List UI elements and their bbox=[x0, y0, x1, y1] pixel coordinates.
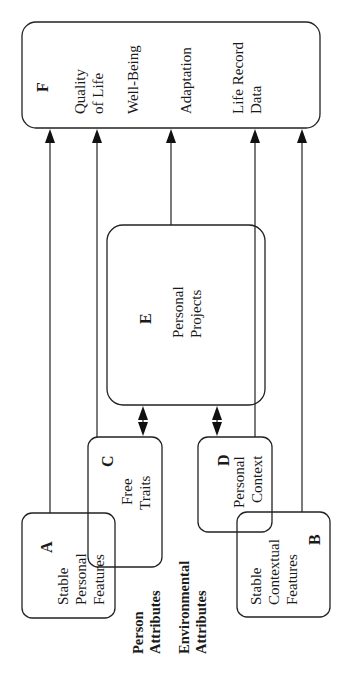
box-c-free: Free bbox=[119, 478, 136, 505]
arrow-c-to-f bbox=[92, 129, 102, 437]
arrow-e-to-f bbox=[166, 129, 176, 225]
bidirectional-arrow-d-e bbox=[212, 406, 222, 436]
box-b-stable: Stable bbox=[248, 568, 265, 606]
box-f-of-life: of Life bbox=[90, 73, 107, 114]
box-d-context: Context bbox=[249, 456, 266, 504]
box-a-personal: Personal bbox=[73, 553, 90, 605]
box-e-projects: Projects bbox=[188, 290, 205, 338]
group-label-person-attributes: Attributes bbox=[147, 590, 164, 654]
box-f-life-record: Life Record bbox=[230, 42, 247, 114]
box-f-adaptation: Adaptation bbox=[178, 47, 195, 114]
bidirectional-arrow-c-e bbox=[138, 406, 148, 436]
box-f-letter: F bbox=[34, 82, 52, 92]
box-f bbox=[22, 22, 320, 128]
group-label-environmental: Environmental bbox=[176, 561, 193, 654]
box-f-data: Data bbox=[248, 86, 265, 114]
group-label-person: Person bbox=[130, 611, 147, 654]
box-f-quality: Quality bbox=[72, 69, 89, 114]
arrow-b-to-f bbox=[297, 129, 307, 512]
box-c-traits: Traits bbox=[137, 476, 154, 510]
box-e-letter: E bbox=[137, 313, 155, 324]
arrow-a-to-f bbox=[45, 129, 55, 513]
box-b-features: Features bbox=[284, 554, 301, 605]
box-a-letter: A bbox=[38, 541, 56, 553]
box-a-features: Features bbox=[91, 554, 108, 605]
box-c-letter: C bbox=[99, 455, 117, 467]
box-b-letter: B bbox=[306, 534, 324, 545]
group-label-environmental-attributes: Attributes bbox=[193, 590, 210, 654]
box-e-personal: Personal bbox=[170, 286, 187, 338]
box-f-well-being: Well-Being bbox=[125, 45, 142, 114]
box-a-stable: Stable bbox=[55, 568, 72, 606]
arrow-d-to-f bbox=[250, 129, 260, 437]
box-b-contextual: Contextual bbox=[266, 539, 283, 605]
box-d-personal: Personal bbox=[231, 456, 248, 508]
